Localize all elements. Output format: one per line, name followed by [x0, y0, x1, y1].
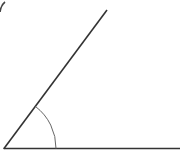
- corner-mark: [0, 2, 5, 12]
- vertex: [3, 148, 5, 150]
- inclined-ray: [4, 10, 107, 149]
- angle-diagram: [0, 0, 182, 159]
- angle-arc: [36, 107, 57, 149]
